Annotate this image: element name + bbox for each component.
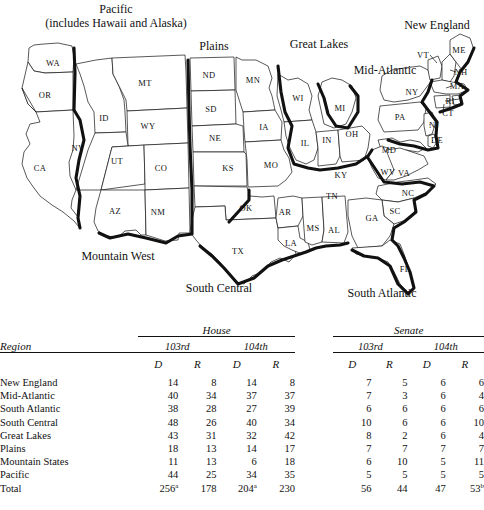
cell-house_103_r: 34 [178,389,216,402]
cell-senate_104_d: 6 [408,389,446,402]
table-total-row: Total256a178204a23056444753b [0,482,484,495]
cell-senate_104_d: 7 [408,442,446,455]
cell-senate_104_d: 5 [408,468,446,481]
cell-house_103_r: 178 [178,482,216,495]
state-label-IN: IN [322,135,332,145]
table-row: New England1481487566 [0,376,484,389]
cell-house_104_d: 34 [217,468,257,481]
state-label-MS: MS [307,223,320,233]
table-row-region-label: Mountain States [0,455,138,468]
cell-senate_103_r: 6 [371,416,407,429]
cell-house_104_d: 14 [217,442,257,455]
spacer-cell-gap [295,322,333,337]
state-label-CO: CO [155,163,167,173]
table-row-region-label: Mid-Atlantic [0,389,138,402]
party-header-house-103-r: R [178,353,216,371]
state-label-FL: FL [400,264,411,274]
cell-house_103_d: 18 [138,442,178,455]
cell-senate_104_d: 6 [408,429,446,442]
cell-house_104_r: 230 [257,482,295,495]
state-label-RI: RI [445,96,454,106]
cell-senate_104_r: 7 [446,442,484,455]
table-row-gap-cell [295,429,333,442]
cell-senate_104_d: 6 [408,376,446,389]
footnote-marker-a: a [175,481,178,489]
state-label-NJ: NJ [429,120,439,130]
table-row-gap-cell [295,442,333,455]
state-label-LA: LA [285,238,297,248]
state-label-VA: VA [398,168,410,178]
cell-house_103_r: 8 [178,376,216,389]
party-header-house-104-d: D [217,353,257,371]
table-row-gap-cell [295,455,333,468]
state-label-NV: NV [72,143,85,153]
congress-header-senate-103: 103rd [333,337,407,353]
cell-house_103_r: 13 [178,455,216,468]
party-header-house-104-r: R [257,353,295,371]
state-label-MT: MT [138,78,151,88]
cell-senate_104_d: 6 [408,402,446,415]
cell-house_104_r: 39 [257,402,295,415]
congress-header-senate-104: 104th [408,337,484,353]
party-header-senate-103-r: R [371,353,407,371]
cell-house_104_d: 204a [217,482,257,495]
cell-senate_103_r: 3 [371,389,407,402]
cell-senate_103_d: 6 [333,455,371,468]
cell-house_103_d: 38 [138,402,178,415]
congress-seats-table-container: House Senate Region 103rd 104th 103rd 10… [0,322,484,510]
cell-senate_103_d: 10 [333,416,371,429]
cell-senate_104_r: 5 [446,468,484,481]
state-label-VT: VT [417,50,429,60]
chamber-header-senate: Senate [333,322,484,337]
spacer-cell [0,322,138,337]
cell-house_104_r: 17 [257,442,295,455]
state-label-PA: PA [395,112,406,122]
cell-house_103_d: 40 [138,389,178,402]
cell-senate_104_d: 6 [408,416,446,429]
table-body: New England1481487566Mid-Atlantic4034373… [0,376,484,495]
region-label-great-lakes: Great Lakes [290,37,348,52]
party-header-house-103-d: D [138,353,178,371]
region-label-mountain-west: Mountain West [81,249,154,264]
state-label-MO: MO [264,160,278,170]
state-label-IA: IA [259,122,269,132]
cell-house_104_d: 32 [217,429,257,442]
state-label-CA: CA [34,163,46,173]
cell-senate_103_r: 5 [371,468,407,481]
state-label-OH: OH [346,129,359,139]
table-row-region-label: New England [0,376,138,389]
cell-house_103_d: 14 [138,376,178,389]
state-label-WY: WY [141,121,156,131]
cell-senate_104_d: 5 [408,455,446,468]
state-label-NH: NH [455,67,468,77]
map-and-table-figure: Pacific (includes Hawaii and Alaska) Pla… [0,0,484,510]
cell-house_104_r: 37 [257,389,295,402]
state-label-MA: MA [450,81,464,91]
cell-senate_103_r: 6 [371,402,407,415]
cell-house_103_d: 44 [138,468,178,481]
state-label-WA: WA [46,58,60,68]
state-label-GA: GA [366,213,379,223]
table-row: South Atlantic382827396666 [0,402,484,415]
state-label-OK: OK [240,203,253,213]
state-label-ME: ME [452,45,465,55]
cell-house_104_r: 18 [257,455,295,468]
region-label-south-atlantic: South Atlantic [348,286,417,301]
cell-house_103_r: 25 [178,468,216,481]
cell-senate_103_d: 56 [333,482,371,495]
table-row-region-label: Pacific [0,468,138,481]
table-row-gap-cell [295,416,333,429]
cell-house_104_d: 27 [217,402,257,415]
cell-senate_104_r: 6 [446,376,484,389]
party-header-senate-104-d: D [408,353,446,371]
cell-house_104_d: 14 [217,376,257,389]
region-label-new-england: New England [404,18,470,33]
cell-senate_103_d: 5 [333,468,371,481]
state-label-DE: DE [431,135,443,145]
spacer-cell-gap-2 [295,337,333,353]
table-row-region-label: Plains [0,442,138,455]
cell-senate_103_r: 5 [371,376,407,389]
state-label-ID: ID [99,113,109,123]
table-row: Mountain States1113618610511 [0,455,484,468]
cell-senate_104_r: 11 [446,455,484,468]
